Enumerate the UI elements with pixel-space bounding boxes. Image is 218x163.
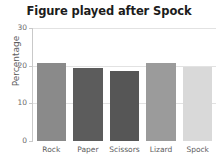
chart-title: Figure played after Spock (0, 4, 218, 18)
y-axis-tick (29, 141, 32, 142)
x-axis-tick-label: Lizard (143, 146, 180, 154)
x-axis-tick-label: Rock (33, 146, 70, 154)
y-axis-tick-label: 0 (3, 137, 27, 145)
bar (183, 67, 212, 141)
y-axis-tick-label: 30 (3, 24, 27, 32)
y-axis-tick (29, 66, 32, 67)
x-axis-tick-label: Paper (70, 146, 107, 154)
bar (73, 68, 102, 141)
y-axis-tick-label: 10 (3, 99, 27, 107)
y-axis-tick-label: 20 (3, 62, 27, 70)
plot-area (33, 28, 216, 141)
bar (146, 63, 175, 141)
y-axis-tick (29, 103, 32, 104)
gridline (33, 28, 216, 29)
x-axis-tick-label: Scissors (106, 146, 143, 154)
bar (110, 71, 139, 141)
y-axis-tick (29, 28, 32, 29)
x-axis-tick-label: Spock (179, 146, 216, 154)
bar (37, 63, 66, 141)
bar-chart: Figure played after Spock Percentage 010… (0, 0, 218, 163)
